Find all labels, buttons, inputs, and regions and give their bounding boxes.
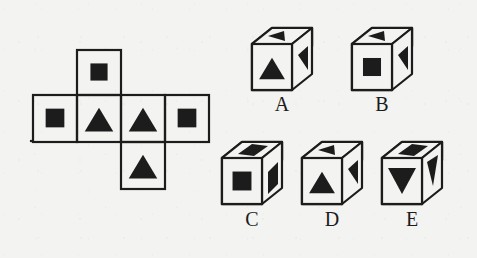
filled-square-icon [363, 58, 381, 76]
option-b-label: B [365, 94, 399, 114]
net-cell-center-left [77, 95, 121, 142]
net-cell-right [165, 95, 209, 142]
scan-artifact-dot [30, 140, 32, 142]
filled-triangle-up-icon [85, 108, 114, 132]
filled-triangle-up-icon [129, 108, 158, 132]
filled-triangle-up-icon [129, 155, 158, 179]
filled-square-icon [233, 172, 252, 191]
option-e-cube[interactable] [382, 142, 442, 204]
puzzle-page: A B C D E [0, 0, 477, 258]
option-b-cube[interactable] [352, 28, 412, 90]
option-a-cube[interactable] [252, 28, 312, 90]
net-cell-bottom [121, 142, 165, 189]
filled-square-icon [90, 63, 107, 80]
filled-square-icon [178, 109, 197, 128]
option-e-label: E [395, 209, 429, 229]
net-cell-center-right [121, 95, 165, 142]
net-cell-top [77, 50, 121, 95]
option-a-label: A [265, 94, 299, 114]
net-cell-left [33, 95, 77, 142]
option-d-label: D [315, 209, 349, 229]
option-c-label: C [235, 209, 269, 229]
filled-square-icon [46, 109, 65, 128]
cube-net [30, 50, 209, 189]
option-c-cube[interactable] [222, 142, 282, 204]
option-d-cube[interactable] [302, 142, 362, 204]
